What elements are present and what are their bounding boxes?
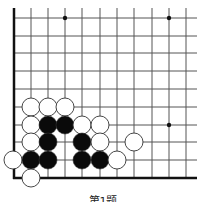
white-stone	[39, 98, 57, 116]
black-stone	[91, 151, 109, 169]
white-stone	[125, 133, 143, 151]
white-stone	[91, 116, 109, 134]
star-point	[167, 16, 171, 20]
black-stone	[73, 133, 91, 151]
white-stone	[22, 169, 40, 187]
white-stone	[91, 133, 109, 151]
white-stone	[22, 133, 40, 151]
black-stone	[73, 151, 91, 169]
white-stone	[4, 151, 22, 169]
black-stone	[22, 151, 40, 169]
grid-lines	[14, 8, 197, 178]
black-stone	[39, 151, 57, 169]
star-point	[167, 123, 171, 127]
white-stone	[108, 151, 126, 169]
black-stone	[56, 116, 74, 134]
star-point	[63, 16, 67, 20]
problem-caption: 第1题	[0, 196, 206, 202]
white-stone	[22, 116, 40, 134]
white-stone	[73, 116, 91, 134]
go-board	[0, 0, 206, 202]
white-stone	[22, 98, 40, 116]
white-stone	[56, 98, 74, 116]
black-stone	[39, 133, 57, 151]
black-stone	[39, 116, 57, 134]
